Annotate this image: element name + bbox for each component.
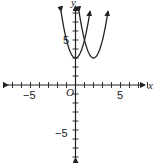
y-tick-label-5: 5 — [63, 34, 69, 46]
y-tick-label-neg5: −5 — [55, 127, 68, 139]
coordinate-plane: x y O −5 5 5 −5 — [0, 0, 156, 166]
x-tick-label-neg5: −5 — [23, 89, 36, 101]
x-axis-label: x — [147, 79, 153, 91]
x-tick-label-5: 5 — [117, 89, 123, 101]
parabola-2-curve — [79, 11, 108, 58]
origin-label: O — [66, 86, 74, 98]
y-axis-label: y — [70, 0, 76, 8]
